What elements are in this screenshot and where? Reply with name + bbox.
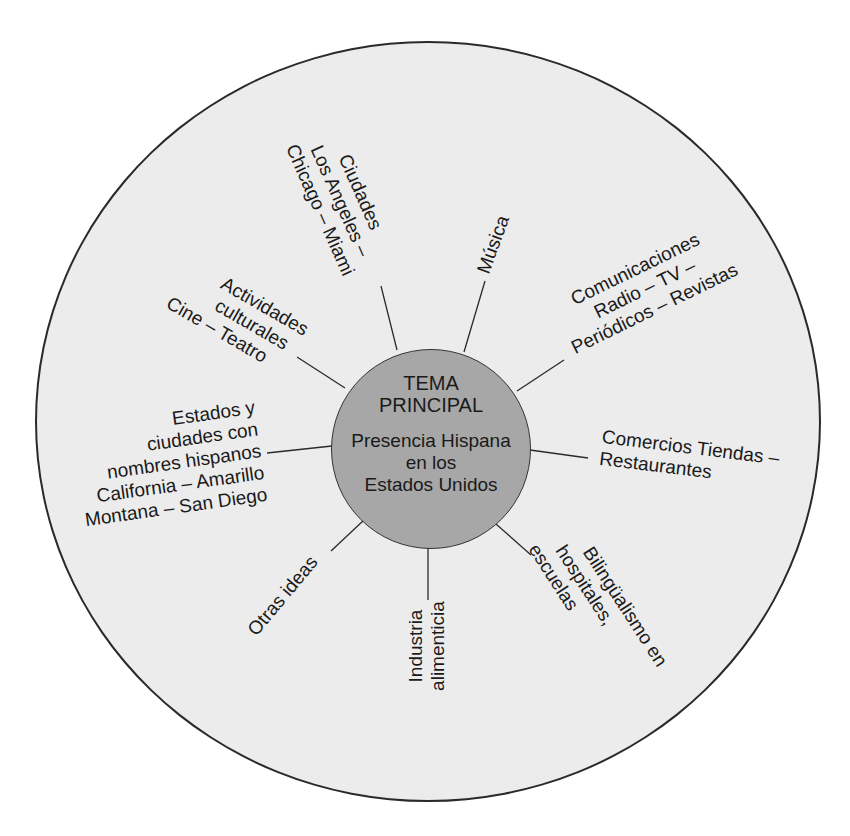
connector-ciudades bbox=[381, 286, 397, 350]
connector-comercios bbox=[530, 450, 588, 458]
mind-map: TEMA PRINCIPAL Presencia Hispana en los … bbox=[0, 0, 850, 836]
central-topic-subtitle: Presencia Hispana en los Estados Unidos bbox=[332, 430, 530, 496]
central-topic: TEMA PRINCIPAL Presencia Hispana en los … bbox=[331, 349, 531, 549]
connector-estados bbox=[267, 446, 332, 453]
branch-industria: Industria alimenticia bbox=[405, 596, 449, 696]
connector-otras bbox=[331, 520, 364, 551]
connector-musica bbox=[464, 281, 485, 352]
central-topic-title: TEMA PRINCIPAL bbox=[332, 372, 530, 416]
